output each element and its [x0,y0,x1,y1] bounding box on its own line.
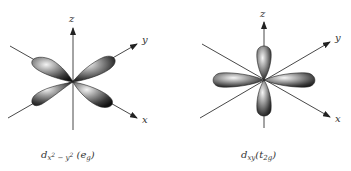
symmetry-subscript: g [86,154,90,162]
dxy-orbital-diagram [175,0,351,171]
orbital-lobes [32,56,115,107]
caption-dx2-y2: dx2 − y2 (eg) [41,150,95,162]
subscript-minus: − [55,154,65,162]
symmetry-label: (t2g) [255,149,276,160]
symmetry-subscript: 2g [263,154,272,162]
x-axis-label: x [142,115,148,125]
orbital-figure-dxy: z y x dxy(t2g) [175,0,351,171]
lobe-bottom [257,80,271,116]
y-axis-label: y [335,33,341,43]
axes [8,28,137,130]
caption-dxy: dxy(t2g) [241,150,276,162]
x-axis-label: x [335,114,341,124]
lobe-lower-left [32,82,73,106]
z-axis-label: z [69,14,74,24]
symmetry-label: (eg) [77,149,95,160]
y-axis-label: y [142,35,148,45]
dx2-y2-orbital-diagram [0,0,175,171]
z-axis-label: z [260,9,265,19]
lobe-top [257,46,271,80]
superscript-2b: 2 [69,151,73,158]
lobe-lower-right [73,82,113,107]
lobe-upper-right [73,56,115,82]
orbital-figure-dx2-y2: z y x dx2 − y2 (eg) [0,0,175,171]
orbital-lobes [213,46,315,116]
lobe-upper-left [32,57,73,82]
lobe-right [264,73,315,87]
